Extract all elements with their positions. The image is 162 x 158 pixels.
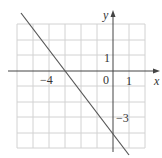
y-tick-label-neg3: −3 xyxy=(116,112,129,124)
origin-label: 0 xyxy=(103,74,109,86)
x-axis-label: x xyxy=(154,75,159,87)
x-axis-arrow-icon xyxy=(153,69,160,74)
x-tick-label-1: 1 xyxy=(126,75,132,87)
x-tick-label-neg4: −4 xyxy=(40,74,53,86)
y-tick-label-1: 1 xyxy=(104,52,110,64)
y-axis-label: y xyxy=(103,9,108,21)
axes xyxy=(8,14,156,152)
coordinate-plane xyxy=(0,0,162,158)
y-axis-arrow-icon xyxy=(111,10,116,17)
